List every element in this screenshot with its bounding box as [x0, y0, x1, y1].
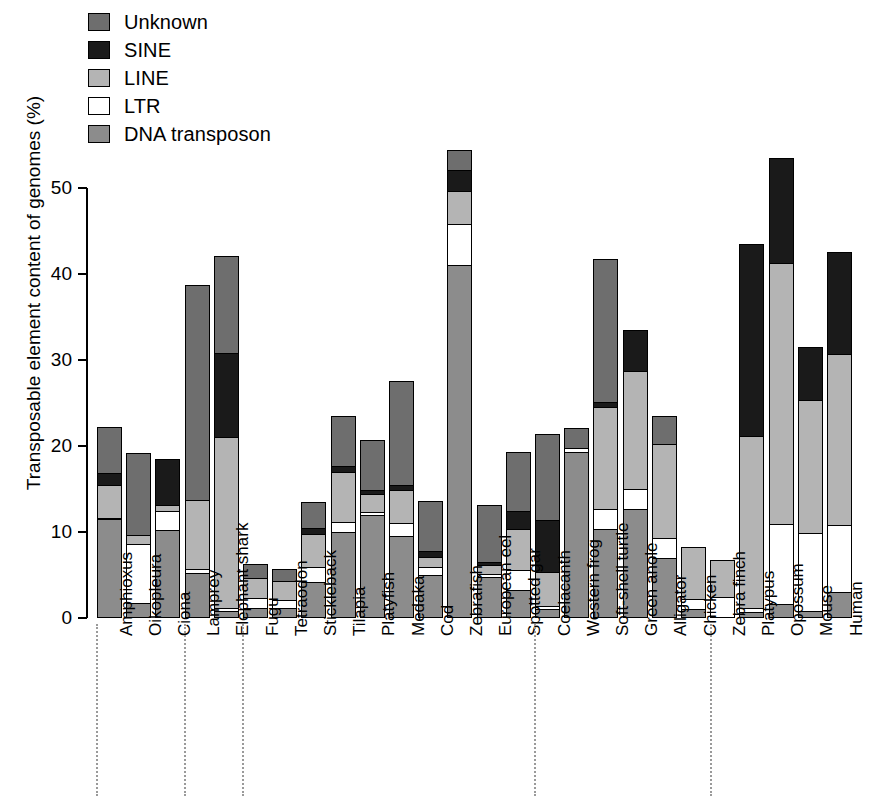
category-label: Oikopleura: [146, 554, 166, 636]
category-label: Coelacanth: [555, 550, 575, 636]
category-label: Zebrafish: [467, 565, 487, 636]
bar-segment-line: [623, 371, 648, 490]
y-tick-mark: [78, 445, 87, 447]
bar-segment-unknown: [418, 501, 443, 553]
group-separator: [710, 624, 712, 796]
bar-segment-line: [360, 494, 385, 513]
bar-segment-unknown: [652, 416, 677, 446]
bar-lamprey: [185, 285, 210, 618]
bar-segment-unknown: [447, 150, 472, 172]
y-axis-line: [86, 188, 88, 618]
category-label: Platyfish: [379, 572, 399, 636]
bar-segment-unknown: [126, 453, 151, 536]
bar-segment-unknown: [506, 452, 531, 512]
category-label: Medaka: [409, 576, 429, 636]
bar-segment-unknown: [593, 259, 618, 403]
group-separator: [242, 624, 244, 796]
category-label: Opossum: [788, 563, 808, 636]
y-tick-label: 0: [38, 608, 72, 627]
bar-segment-unknown: [389, 381, 414, 487]
y-tick-label: 40: [38, 264, 72, 283]
bar-zebrafish: [447, 150, 472, 618]
category-label: European eel: [496, 535, 516, 636]
category-label: Zebra finch: [730, 551, 750, 636]
bar-segment-line: [331, 472, 356, 524]
bar-segment-line: [447, 191, 472, 225]
bar-segment-ltr: [155, 511, 180, 532]
category-label: Alligator: [671, 575, 691, 636]
bar-segment-line: [593, 407, 618, 510]
bar-segment-line: [185, 500, 210, 571]
category-label: Western frog: [584, 539, 604, 636]
bar-segment-sine: [214, 353, 239, 439]
category-label: Stickleback: [321, 550, 341, 636]
bar-segment-unknown: [331, 416, 356, 468]
bar-segment-ltr: [447, 224, 472, 267]
category-label: Tetraodon: [292, 560, 312, 636]
bar-segment-sine: [506, 511, 531, 530]
bar-segment-line: [97, 485, 122, 519]
y-tick-label: 30: [38, 350, 72, 369]
y-tick-label: 50: [38, 178, 72, 197]
bar-segment-unknown: [360, 440, 385, 492]
bar-segment-line: [769, 263, 794, 525]
bar-segment-sine: [827, 252, 852, 355]
category-label: Platypus: [759, 571, 779, 636]
bar-segment-unknown: [185, 285, 210, 502]
group-separator: [534, 624, 536, 796]
category-label: Human: [847, 581, 867, 636]
y-tick-mark: [78, 273, 87, 275]
bar-segment-unknown: [97, 427, 122, 474]
bar-segment-sine: [798, 347, 823, 402]
category-label: Green anole: [642, 542, 662, 636]
y-tick-mark: [78, 359, 87, 361]
bar-segment-line: [827, 354, 852, 526]
category-label: Fugu: [263, 597, 283, 636]
bar-segment-unknown: [301, 502, 326, 530]
y-tick-label: 10: [38, 522, 72, 541]
category-label: Elephant shark: [233, 523, 253, 636]
group-separator: [96, 624, 98, 796]
bar-segment-sine: [739, 244, 764, 438]
group-separator: [184, 624, 186, 796]
y-tick-label: 20: [38, 436, 72, 455]
bar-segment-line: [389, 490, 414, 524]
bar-segment-sine: [447, 170, 472, 192]
category-label: Tilapia: [350, 587, 370, 636]
category-label: Amphioxus: [117, 552, 137, 636]
bar-segment-unknown: [564, 428, 589, 450]
bar-segment-sine: [623, 330, 648, 373]
bar-segment-line: [798, 400, 823, 534]
plot-area: Transposable element content of genomes …: [0, 0, 894, 799]
category-label: Mouse: [817, 585, 837, 636]
category-label: Cod: [438, 605, 458, 636]
bar-segment-unknown: [214, 256, 239, 354]
bar-segment-sine: [155, 459, 180, 507]
y-tick-mark: [78, 187, 87, 189]
bar-segment-unknown: [535, 434, 560, 521]
bar-human: [827, 252, 852, 618]
y-tick-mark: [78, 531, 87, 533]
category-label: Spotted gar: [525, 548, 545, 636]
bars-container: [90, 188, 890, 618]
category-label: Lamprey: [204, 570, 224, 636]
bar-segment-sine: [769, 158, 794, 265]
chart-root: UnknownSINELINELTRDNA transposon Transpo…: [0, 0, 894, 799]
bar-segment-line: [652, 444, 677, 539]
bar-opossum: [769, 158, 794, 618]
y-tick-mark: [78, 617, 87, 619]
category-label: Soft-shell turtle: [613, 523, 633, 636]
bar-segment-ltr: [623, 489, 648, 511]
